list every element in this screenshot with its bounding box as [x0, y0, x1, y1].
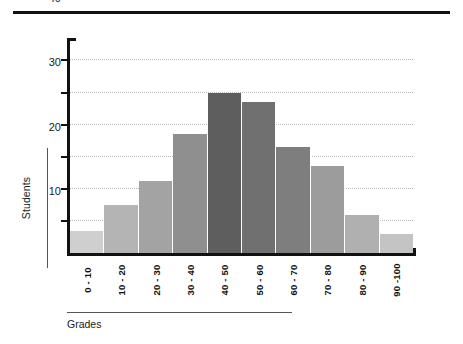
- y-axis-title-rule: [47, 148, 48, 268]
- y-axis-tick-mark: 50: [61, 92, 68, 94]
- x-axis-tick-label: 40 - 50: [219, 265, 230, 296]
- x-axis-tick-labels-group: 0 - 1010 - 2020 - 3030 - 4040 - 5050 - 6…: [70, 256, 413, 304]
- bar: [208, 93, 242, 253]
- y-axis-tick-mark: 20: [61, 188, 68, 190]
- bar: [345, 215, 379, 254]
- x-axis-tick-label: 60 - 70: [287, 265, 298, 296]
- x-axis-tick-cell: 50 - 60: [241, 256, 275, 304]
- y-axis-title-block: Students: [8, 148, 54, 268]
- plot-inner: 0102030405060: [70, 38, 413, 253]
- y-axis-tick-mark: 10: [61, 220, 68, 222]
- bar: [311, 166, 345, 253]
- y-axis-title: Students: [20, 158, 32, 238]
- bar: [242, 102, 276, 253]
- y-axis-tick-label: 10: [49, 185, 61, 197]
- top-divider-rule: [13, 11, 450, 14]
- x-axis-tick-label: 80 - 90: [356, 265, 367, 296]
- x-axis-tick-label: 50 - 60: [253, 265, 264, 296]
- x-axis-tick-cell: 90 -100: [379, 256, 413, 304]
- bar: [276, 147, 310, 253]
- x-axis-tick-cell: 40 - 50: [207, 256, 241, 304]
- x-axis-title-block: Grades: [67, 312, 292, 338]
- x-axis-tick-cell: 0 - 10: [70, 256, 104, 304]
- y-axis-tick-mark: 30: [61, 156, 68, 158]
- y-axis-tick-mark: 40: [61, 124, 68, 126]
- plot-area: 0102030405060: [70, 38, 413, 253]
- y-axis-tick-label: 0: [55, 249, 61, 261]
- x-axis-title-rule: [67, 312, 292, 313]
- x-axis-right-cap: [413, 248, 416, 256]
- bar: [173, 134, 207, 253]
- bar: [70, 231, 104, 253]
- bar: [104, 205, 138, 253]
- x-axis-tick-label: 20 - 30: [150, 265, 161, 296]
- x-axis-tick-cell: 80 - 90: [344, 256, 378, 304]
- x-axis-tick-cell: 70 - 80: [310, 256, 344, 304]
- x-axis-title: Grades: [67, 318, 101, 330]
- x-axis-tick-cell: 30 - 40: [173, 256, 207, 304]
- bar: [380, 234, 413, 253]
- x-axis-tick-label: 90 -100: [390, 263, 401, 297]
- x-axis-tick-label: 70 - 80: [322, 265, 333, 296]
- x-axis-tick-cell: 60 - 70: [276, 256, 310, 304]
- x-axis-tick-label: 10 - 20: [116, 265, 127, 296]
- y-axis-tick-mark: 60: [61, 59, 68, 61]
- bars-group: [70, 38, 413, 253]
- y-axis-tick-label: 20: [49, 121, 61, 133]
- y-axis-tick-label: 40: [49, 0, 61, 4]
- x-axis-tick-label: 0 - 10: [82, 267, 93, 293]
- y-axis-tick-label: 30: [49, 56, 61, 68]
- x-axis-tick-cell: 20 - 30: [139, 256, 173, 304]
- x-axis-tick-cell: 10 - 20: [104, 256, 138, 304]
- bar: [139, 181, 173, 253]
- histogram-figure: Students 0102030405060 0 - 1010 - 2020 -…: [0, 0, 463, 344]
- x-axis-tick-label: 30 - 40: [185, 265, 196, 296]
